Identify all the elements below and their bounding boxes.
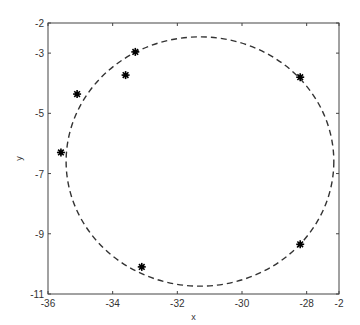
y-tick-label: -11	[30, 289, 44, 300]
data-point-asterisk	[73, 90, 81, 98]
y-tick-label: -2	[35, 18, 44, 29]
x-tick-label: -2	[335, 298, 344, 309]
x-tick-label: -30	[235, 298, 250, 309]
y-axis-label: y	[14, 156, 24, 161]
axes-frame	[48, 23, 339, 294]
data-point-asterisk	[131, 48, 139, 56]
axes: -36-34-32-30-28-2-2-3-5-7-9-11xy	[14, 18, 344, 322]
fitted-circle	[66, 37, 334, 286]
x-tick-label: -34	[105, 298, 120, 309]
data-point-asterisk	[138, 263, 146, 271]
x-tick-label: -32	[170, 298, 185, 309]
data-point-asterisk	[296, 240, 304, 248]
y-tick-label: -5	[35, 108, 44, 119]
y-tick-label: -7	[35, 169, 44, 180]
y-tick-label: -9	[35, 229, 44, 240]
x-axis-label: x	[191, 312, 196, 322]
x-tick-label: -28	[299, 298, 314, 309]
plot-area	[57, 37, 334, 286]
chart: -36-34-32-30-28-2-2-3-5-7-9-11xy	[0, 0, 360, 325]
data-point-asterisk	[57, 148, 65, 156]
data-point-asterisk	[296, 73, 304, 81]
y-tick-label: -3	[35, 48, 44, 59]
data-point-asterisk	[122, 71, 130, 79]
